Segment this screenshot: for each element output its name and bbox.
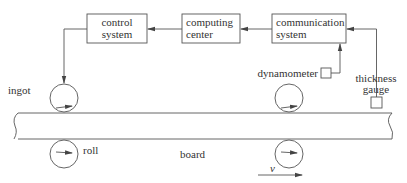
roll-bottom-right [275,140,303,168]
communication-system-label-1: communication [276,16,345,28]
thickness-gauge-sensor-icon [371,97,382,108]
rolling-mill-control-diagram: control system computing center communic… [0,0,407,183]
board-strip [14,113,393,139]
thickness-gauge-label-2: gauge [363,83,389,95]
dynamometer-label: dynamometer [258,67,319,79]
control-system-block: control system [87,14,147,43]
arrow-control-to-ingot [64,29,87,83]
ingot-label: ingot [8,84,31,96]
roll-top-left-ingot [50,84,78,112]
board-label: board [180,148,206,160]
control-system-label-2: system [102,28,133,40]
roll-bottom-left [50,140,78,168]
roll-top-right [275,84,303,112]
roll-label: roll [83,144,98,156]
dynamometer-sensor-icon [321,68,331,78]
computing-center-block: computing center [182,14,240,43]
computing-center-label-2: center [186,28,213,40]
communication-system-block: communication system [272,14,346,43]
arrow-dynamometer-to-communication [331,44,340,73]
computing-center-label-1: computing [186,16,234,28]
control-system-label-1: control [101,16,132,28]
velocity-label: v [270,162,275,174]
communication-system-label-2: system [276,28,307,40]
